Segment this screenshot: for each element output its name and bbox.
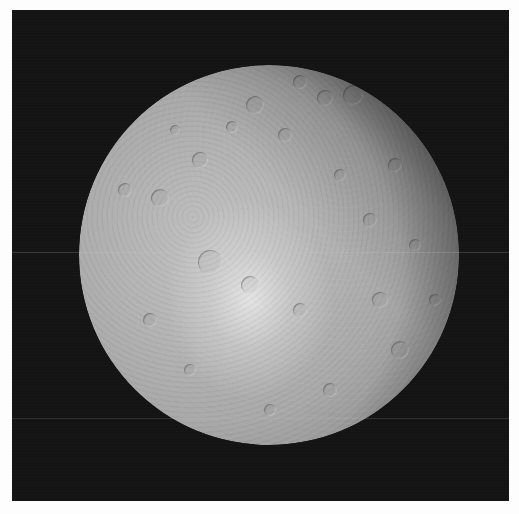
scan-line-streak	[12, 252, 509, 253]
moon-disc	[79, 65, 459, 445]
terminator-shadow	[79, 65, 459, 445]
space-background	[12, 10, 509, 501]
scan-line-streak	[12, 418, 509, 419]
image-page	[0, 0, 519, 514]
